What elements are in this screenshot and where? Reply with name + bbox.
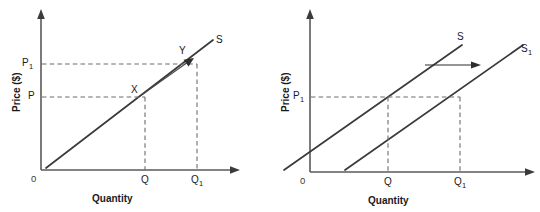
right-s1-main: S: [521, 43, 528, 54]
left-y-axis-title: Price ($): [12, 73, 22, 112]
left-origin-label: 0: [31, 174, 36, 184]
right-y-axis-arrowhead: [306, 9, 314, 19]
left-p1-main: P: [22, 57, 29, 68]
left-quantity-q-tick-label: Q: [141, 175, 149, 185]
right-x-axis-title: Quantity: [368, 196, 409, 206]
right-p1-sub: 1: [300, 95, 304, 104]
panel-movement-along-supply-curve: Price ($) Quantity 0 P1 P Q Q1 S X Y: [0, 0, 270, 212]
right-q1-sub: 1: [462, 181, 466, 190]
right-y-axis-title: Price ($): [281, 73, 291, 112]
left-movement-arrow-shaft: [143, 62, 188, 94]
right-quantity-q-tick-label: Q: [384, 177, 392, 187]
left-point-label-y: Y: [179, 46, 186, 56]
right-price-p1-tick-label: P1: [293, 91, 304, 101]
right-origin-label: 0: [300, 176, 305, 186]
right-curve-label-s1: S1: [521, 44, 532, 54]
supply-curve-figure: Price ($) Quantity 0 P1 P Q Q1 S X Y: [0, 0, 540, 212]
right-curve-label-s: S: [457, 32, 464, 42]
right-panel-graphic: [270, 0, 540, 212]
right-p1-main: P: [293, 90, 300, 101]
panel-shift-of-supply-curve: Price ($) Quantity 0 P1 Q Q1 S S1: [270, 0, 540, 212]
right-s1-sub: 1: [528, 48, 532, 57]
left-point-label-x: X: [131, 85, 138, 95]
left-price-p1-tick-label: P1: [22, 58, 33, 68]
left-y-axis-arrowhead: [37, 9, 45, 19]
left-x-axis-arrowhead: [230, 166, 240, 174]
right-x-axis-arrowhead: [525, 168, 535, 176]
left-q1-sub: 1: [199, 179, 203, 188]
right-shift-arrow-head: [471, 61, 481, 68]
left-quantity-q1-tick-label: Q1: [191, 175, 203, 185]
left-q1-main: Q: [191, 174, 199, 185]
right-quantity-q1-tick-label: Q1: [454, 177, 466, 187]
right-q1-main: Q: [454, 176, 462, 187]
left-p1-sub: 1: [29, 62, 33, 71]
left-x-axis-title: Quantity: [92, 194, 133, 204]
left-panel-graphic: [0, 0, 270, 212]
left-curve-label-s: S: [216, 35, 223, 45]
left-price-p-tick-label: P: [28, 91, 35, 101]
